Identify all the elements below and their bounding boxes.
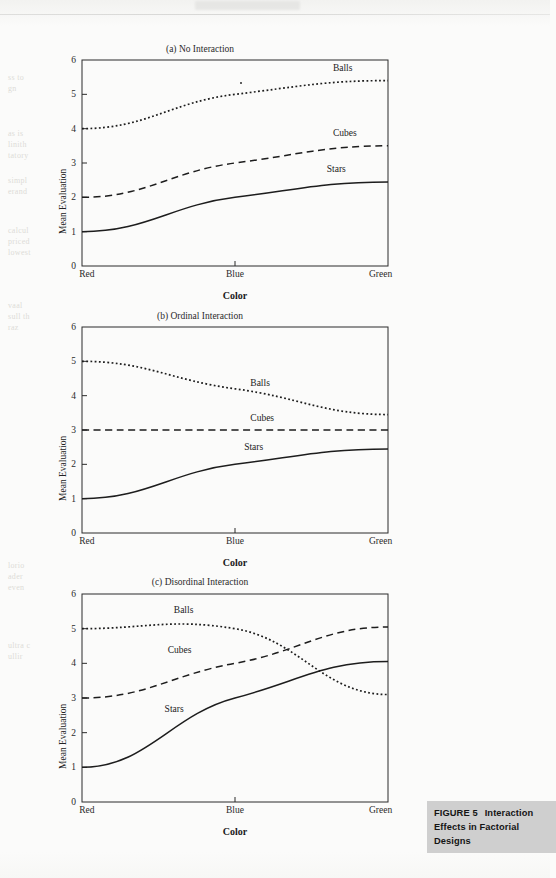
y-tick-label: 6	[62, 55, 76, 65]
series-line-balls	[82, 81, 388, 129]
x-axis-label-b: Color	[82, 557, 388, 568]
x-tick-label: Red	[79, 805, 94, 815]
x-tick-label: Green	[369, 536, 392, 546]
x-axis-label-c: Color	[82, 826, 388, 837]
series-line-stars	[82, 182, 388, 232]
chart-title-a: (a) No Interaction	[0, 44, 400, 54]
chart-panel-a: (a) No Interaction Mean Evaluation 01234…	[0, 44, 400, 310]
chart-title-c: (c) Disordinal Interaction	[0, 577, 400, 587]
figure-caption: FIGURE 5Interaction Effects in Factorial…	[427, 801, 556, 853]
page-top-rule	[0, 14, 550, 15]
page-top-smudge	[195, 1, 300, 10]
scan-speck	[240, 82, 242, 84]
figure-caption-line1: Interaction	[485, 808, 534, 818]
series-label-balls: Balls	[174, 605, 194, 615]
series-label-stars: Stars	[244, 442, 263, 452]
plot-area-c	[82, 594, 388, 802]
y-tick-label: 2	[62, 192, 76, 202]
y-tick-label: 4	[62, 658, 76, 668]
series-label-stars: Stars	[165, 704, 184, 714]
chart-panel-b: (b) Ordinal Interaction Mean Evaluation …	[0, 311, 400, 577]
series-label-cubes: Cubes	[250, 413, 274, 423]
figure-caption-line2: Effects in Factorial Designs	[434, 822, 519, 846]
y-tick-label: 1	[62, 494, 76, 504]
x-tick-label: Blue	[226, 269, 244, 279]
figure-number: FIGURE 5	[434, 808, 478, 818]
plot-area-b	[82, 327, 388, 533]
y-tick-label: 4	[62, 391, 76, 401]
y-tick-label: 3	[62, 158, 76, 168]
y-tick-label: 6	[62, 589, 76, 599]
series-label-balls: Balls	[250, 378, 270, 388]
series-label-cubes: Cubes	[333, 128, 357, 138]
y-tick-label: 5	[62, 89, 76, 99]
y-tick-label: 2	[62, 459, 76, 469]
y-tick-label: 2	[62, 728, 76, 738]
y-tick-label: 0	[62, 261, 76, 271]
series-line-stars	[82, 662, 388, 768]
y-tick-label: 0	[62, 528, 76, 538]
series-label-stars: Stars	[327, 164, 346, 174]
x-tick-label: Green	[369, 805, 392, 815]
x-tick-label: Blue	[226, 536, 244, 546]
y-tick-label: 1	[62, 762, 76, 772]
y-tick-label: 0	[62, 797, 76, 807]
y-tick-label: 5	[62, 356, 76, 366]
chart-svg-b	[82, 327, 388, 533]
series-line-balls	[82, 361, 388, 414]
y-tick-label: 4	[62, 124, 76, 134]
chart-svg-c	[82, 594, 388, 802]
y-tick-label: 6	[62, 322, 76, 332]
x-tick-label: Green	[369, 269, 392, 279]
y-tick-label: 5	[62, 624, 76, 634]
x-tick-label: Red	[79, 536, 94, 546]
series-line-balls	[82, 624, 388, 695]
series-label-cubes: Cubes	[168, 645, 192, 655]
chart-title-b: (b) Ordinal Interaction	[0, 311, 400, 321]
series-line-cubes	[82, 627, 388, 698]
series-line-stars	[82, 449, 388, 499]
x-tick-label: Red	[79, 269, 94, 279]
y-tick-label: 1	[62, 227, 76, 237]
chart-panel-c: (c) Disordinal Interaction Mean Evaluati…	[0, 577, 400, 847]
series-label-balls: Balls	[333, 63, 353, 73]
y-tick-label: 3	[62, 693, 76, 703]
x-tick-label: Blue	[226, 805, 244, 815]
y-tick-label: 3	[62, 425, 76, 435]
x-axis-label-a: Color	[82, 290, 388, 301]
